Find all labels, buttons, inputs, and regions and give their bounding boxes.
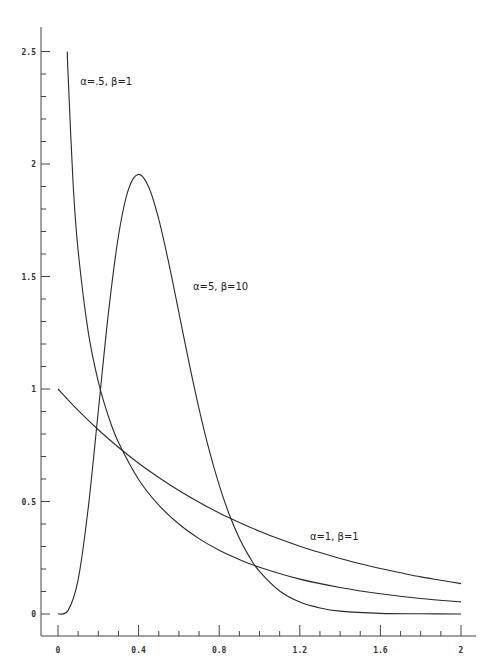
x-tick-label: 0.4 [131, 646, 146, 655]
curve-alpha-5-beta-1 [67, 52, 461, 602]
chart-canvas: 00.511.522.5 00.40.81.21.62 α=.5, β=1α=5… [0, 0, 493, 664]
y-tick-label: 0.5 [22, 498, 37, 507]
curve-alpha-5-beta-10 [58, 174, 461, 614]
y-tick-label: 1 [31, 385, 36, 394]
y-tick-label: 2.5 [22, 48, 37, 57]
y-tick-label: 2 [31, 160, 36, 169]
x-tick-label: 2 [459, 646, 464, 655]
y-tick-label: 0 [31, 610, 36, 619]
series-curves [58, 52, 461, 615]
series-label-alpha-1-beta-1: α=1, β=1 [310, 531, 359, 542]
series-label-alpha-5-beta-1: α=.5, β=1 [80, 76, 132, 87]
series-label-alpha-5-beta-10: α=5, β=10 [193, 281, 248, 292]
x-tick-label: 0 [56, 646, 61, 655]
x-tick-label: 1.6 [373, 646, 388, 655]
x-axis-ticks: 00.40.81.21.62 [56, 625, 464, 655]
x-tick-label: 1.2 [293, 646, 308, 655]
y-axis-ticks: 00.511.522.5 [22, 48, 50, 620]
x-tick-label: 0.8 [212, 646, 227, 655]
y-tick-label: 1.5 [22, 273, 37, 282]
series-labels: α=.5, β=1α=5, β=10α=1, β=1 [80, 76, 359, 542]
curve-alpha-1-beta-1 [58, 389, 461, 584]
